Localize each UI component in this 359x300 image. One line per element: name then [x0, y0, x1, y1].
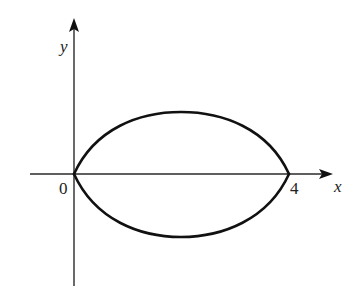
x-axis-label: x: [333, 177, 342, 196]
coordinate-plot: y x 0 4: [0, 0, 359, 300]
upper-arc: [74, 112, 289, 174]
diagram-canvas: y x 0 4: [0, 0, 359, 300]
x-tick-label-4: 4: [290, 179, 299, 198]
origin-label: 0: [59, 179, 68, 198]
lower-arc: [74, 174, 289, 237]
y-axis-label: y: [58, 37, 68, 56]
